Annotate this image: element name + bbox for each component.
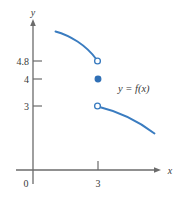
function-graph-figure: 4.8 4 3 3 0 y x y = f(x) <box>0 0 179 201</box>
y-axis-label: y <box>30 7 36 18</box>
closed-point-marker <box>95 76 101 82</box>
curve-branch-right <box>100 107 155 134</box>
y-tick-label-3: 3 <box>24 101 29 112</box>
y-tick-label-4-8: 4.8 <box>17 56 30 67</box>
curve-branch-left <box>56 32 97 60</box>
open-point-lower-marker <box>95 103 101 109</box>
x-axis-arrowhead <box>154 167 161 173</box>
x-axis-label: x <box>167 165 173 176</box>
markers-group <box>95 58 101 109</box>
plot-canvas: 4.8 4 3 3 0 y x y = f(x) <box>0 0 179 201</box>
axes-group <box>16 19 161 184</box>
open-point-upper-marker <box>95 58 101 64</box>
y-axis-arrowhead <box>30 19 36 26</box>
x-tick-label-3: 3 <box>96 178 101 189</box>
origin-label: 0 <box>24 178 29 189</box>
function-label: y = f(x) <box>117 83 150 95</box>
axis-name-labels-group: y x <box>30 7 173 176</box>
tick-marks-group <box>33 61 98 170</box>
tick-labels-group: 4.8 4 3 3 0 <box>17 56 101 190</box>
y-tick-label-4: 4 <box>24 74 29 85</box>
